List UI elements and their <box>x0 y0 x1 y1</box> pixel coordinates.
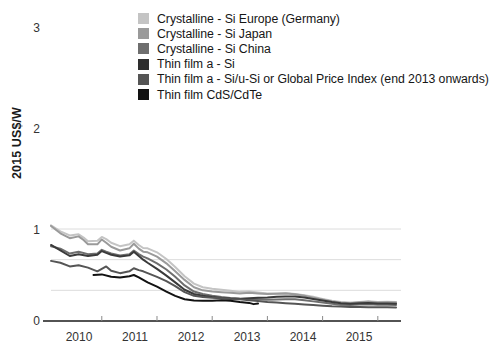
legend-item[interactable]: Crystalline - Si Japan <box>138 26 488 41</box>
x-axis-tick-2013: 2013 <box>217 330 277 344</box>
x-axis-tick-2012: 2012 <box>161 330 221 344</box>
legend-swatch-crystalline-si-china <box>138 43 149 54</box>
legend-label-crystalline-si-japan: Crystalline - Si Japan <box>157 27 272 41</box>
legend-swatch-crystalline-si-europe <box>138 13 149 24</box>
legend: Crystalline - Si Europe (Germany) Crysta… <box>138 11 488 102</box>
legend-label-thin-film-global-price-index: Thin film a - Si/u-Si or Global Price In… <box>157 72 489 86</box>
legend-swatch-thin-film-cds-cdte <box>138 89 149 100</box>
legend-swatch-crystalline-si-japan <box>138 28 149 39</box>
legend-label-thin-film-a-si: Thin film a - Si <box>157 57 235 71</box>
y-axis-tick-3: 3 <box>20 21 40 35</box>
legend-item[interactable]: Crystalline - Si Europe (Germany) <box>138 11 488 26</box>
series-lines <box>51 225 396 307</box>
y-axis-tick-1: 1 <box>20 223 40 237</box>
x-axis-tick-2010: 2010 <box>49 330 109 344</box>
legend-swatch-thin-film-a-si <box>138 59 149 70</box>
x-axis-tick-2011: 2011 <box>105 330 165 344</box>
legend-label-crystalline-si-europe: Crystalline - Si Europe (Germany) <box>157 12 340 26</box>
legend-item[interactable]: Crystalline - Si China <box>138 41 488 56</box>
y-axis-tick-2: 2 <box>20 122 40 136</box>
legend-label-crystalline-si-china: Crystalline - Si China <box>157 42 271 56</box>
legend-swatch-thin-film-global-price-index <box>138 74 149 85</box>
legend-item[interactable]: Thin film CdS/CdTe <box>138 87 488 102</box>
y-axis-title: 2015 US$/W <box>10 98 24 188</box>
x-axis <box>43 316 401 321</box>
x-axis-tick-2014: 2014 <box>273 330 333 344</box>
legend-item[interactable]: Thin film a - Si <box>138 57 488 72</box>
legend-label-thin-film-cds-cdte: Thin film CdS/CdTe <box>157 88 262 102</box>
x-axis-tick-2015: 2015 <box>329 330 389 344</box>
legend-item[interactable]: Thin film a - Si/u-Si or Global Price In… <box>138 72 488 87</box>
series-line <box>51 225 396 302</box>
pv-module-price-chart: 2015 US$/W 3 2 1 0 2010 2011 2012 2013 2… <box>0 0 489 351</box>
y-axis-tick-0: 0 <box>20 314 40 328</box>
